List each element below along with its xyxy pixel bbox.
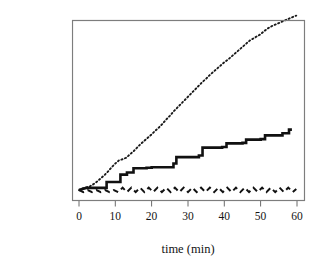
right-margin-mask — [306, 0, 323, 272]
x-tick-label-20: 20 — [146, 210, 158, 222]
x-tick-label-40: 40 — [219, 210, 231, 222]
chart-figure: 0 10 20 30 40 50 60 0 10 20 30 40 50 60 — [0, 0, 323, 272]
left-margin-mask — [0, 0, 72, 272]
x-tick-label-50: 50 — [255, 210, 267, 222]
x-axis-title: time (min) — [161, 242, 214, 256]
arrivals-line-chart: 0 10 20 30 40 50 60 0 10 20 30 40 50 60 — [0, 0, 323, 272]
x-tick-label-60: 60 — [291, 210, 303, 222]
x-tick-label-0: 0 — [76, 210, 82, 222]
x-tick-label-30: 30 — [182, 210, 194, 222]
x-tick-label-10: 10 — [110, 210, 122, 222]
